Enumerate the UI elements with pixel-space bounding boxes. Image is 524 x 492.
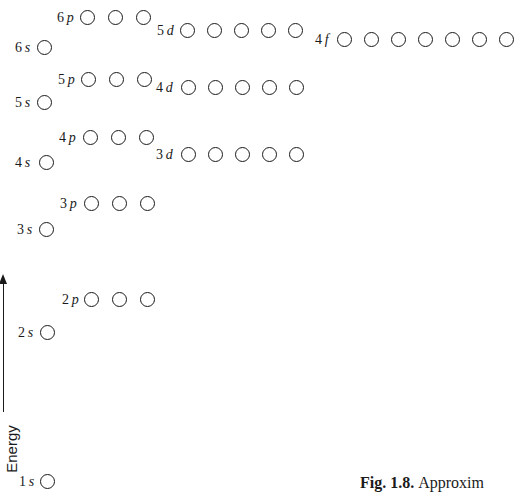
orbital-circle-icon bbox=[137, 72, 152, 87]
orbital-circle-icon bbox=[289, 80, 304, 95]
orbital-circle-icon bbox=[83, 130, 98, 145]
orbital-circle-icon bbox=[109, 72, 124, 87]
principal-quantum-number: 5 bbox=[58, 72, 65, 87]
orbital-circle-icon bbox=[364, 32, 379, 47]
principal-quantum-number: 6 bbox=[15, 40, 22, 55]
subshell-label: 4 s bbox=[15, 156, 30, 170]
subshell-letter: s bbox=[25, 155, 30, 170]
principal-quantum-number: 3 bbox=[60, 196, 67, 211]
orbital-circle-icon bbox=[288, 23, 303, 38]
subshell-letter: p bbox=[67, 10, 74, 25]
orbital-circle-icon bbox=[80, 10, 95, 25]
principal-quantum-number: 5 bbox=[157, 23, 164, 38]
orbital-circle-icon bbox=[40, 325, 55, 340]
orbital-circle-icon bbox=[391, 32, 406, 47]
orbital-circle-icon bbox=[262, 80, 277, 95]
energy-axis-line bbox=[3, 282, 4, 412]
subshell-label: 3 p bbox=[60, 197, 77, 211]
orbital-circle-icon bbox=[181, 147, 196, 162]
principal-quantum-number: 3 bbox=[156, 147, 163, 162]
subshell-label: 2 s bbox=[18, 326, 33, 340]
principal-quantum-number: 4 bbox=[315, 32, 322, 47]
subshell-letter: s bbox=[28, 325, 33, 340]
orbital-circle-icon bbox=[235, 147, 250, 162]
orbital-circle-icon bbox=[140, 196, 155, 211]
subshell-letter: s bbox=[25, 40, 30, 55]
orbital-circle-icon bbox=[499, 32, 514, 47]
orbital-circle-icon bbox=[111, 130, 126, 145]
orbital-circle-icon bbox=[112, 292, 127, 307]
subshell-label: 4 d bbox=[156, 81, 173, 95]
orbital-circle-icon bbox=[208, 147, 223, 162]
orbital-circle-icon bbox=[37, 95, 52, 110]
subshell-label: 5 s bbox=[15, 96, 30, 110]
subshell-label: 4 p bbox=[59, 131, 76, 145]
principal-quantum-number: 4 bbox=[59, 130, 66, 145]
subshell-letter: d bbox=[166, 80, 173, 95]
orbital-circle-icon bbox=[180, 23, 195, 38]
subshell-letter: s bbox=[29, 474, 34, 489]
subshell-letter: s bbox=[25, 95, 30, 110]
subshell-label: 3 s bbox=[17, 223, 32, 237]
principal-quantum-number: 2 bbox=[62, 292, 69, 307]
principal-quantum-number: 1 bbox=[19, 474, 26, 489]
subshell-label: 1 s bbox=[19, 475, 34, 489]
subshell-letter: p bbox=[72, 292, 79, 307]
subshell-label: 2 p bbox=[62, 293, 79, 307]
figure-caption: Fig. 1.8. Approxim bbox=[360, 474, 484, 492]
subshell-label: 4 f bbox=[315, 33, 329, 47]
subshell-label: 3 d bbox=[156, 148, 173, 162]
subshell-label: 6 s bbox=[15, 41, 30, 55]
orbital-circle-icon bbox=[235, 80, 250, 95]
principal-quantum-number: 4 bbox=[15, 155, 22, 170]
subshell-letter: p bbox=[69, 130, 76, 145]
subshell-label: 5 d bbox=[157, 24, 174, 38]
orbital-circle-icon bbox=[81, 72, 96, 87]
orbital-circle-icon bbox=[136, 10, 151, 25]
orbital-circle-icon bbox=[84, 292, 99, 307]
orbital-circle-icon bbox=[472, 32, 487, 47]
orbital-circle-icon bbox=[207, 23, 222, 38]
energy-axis-label: Energy bbox=[4, 409, 20, 489]
orbital-circle-icon bbox=[289, 147, 304, 162]
orbital-circle-icon bbox=[39, 155, 54, 170]
orbital-circle-icon bbox=[112, 196, 127, 211]
subshell-letter: d bbox=[166, 147, 173, 162]
orbital-circle-icon bbox=[181, 80, 196, 95]
principal-quantum-number: 2 bbox=[18, 325, 25, 340]
subshell-letter: f bbox=[325, 32, 329, 47]
orbital-circle-icon bbox=[208, 80, 223, 95]
subshell-letter: p bbox=[70, 196, 77, 211]
orbital-circle-icon bbox=[234, 23, 249, 38]
caption-text: Approxim bbox=[418, 474, 484, 491]
energy-axis-arrowhead-icon bbox=[0, 274, 7, 284]
orbital-circle-icon bbox=[108, 10, 123, 25]
subshell-letter: p bbox=[68, 72, 75, 87]
orbital-circle-icon bbox=[40, 474, 55, 489]
subshell-label: 5 p bbox=[58, 73, 75, 87]
principal-quantum-number: 4 bbox=[156, 80, 163, 95]
orbital-circle-icon bbox=[262, 147, 277, 162]
subshell-letter: s bbox=[27, 222, 32, 237]
orbital-circle-icon bbox=[140, 292, 155, 307]
subshell-letter: d bbox=[167, 23, 174, 38]
orbital-circle-icon bbox=[261, 23, 276, 38]
orbital-circle-icon bbox=[445, 32, 460, 47]
subshell-label: 6 p bbox=[57, 11, 74, 25]
orbital-circle-icon bbox=[84, 196, 99, 211]
orbital-circle-icon bbox=[418, 32, 433, 47]
principal-quantum-number: 6 bbox=[57, 10, 64, 25]
figure-number: Fig. 1.8. bbox=[360, 474, 414, 491]
orbital-circle-icon bbox=[37, 40, 52, 55]
orbital-circle-icon bbox=[337, 32, 352, 47]
principal-quantum-number: 5 bbox=[15, 95, 22, 110]
principal-quantum-number: 3 bbox=[17, 222, 24, 237]
orbital-circle-icon bbox=[139, 130, 154, 145]
orbital-circle-icon bbox=[39, 222, 54, 237]
